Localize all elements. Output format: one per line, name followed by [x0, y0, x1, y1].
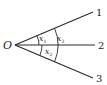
svg-text:3: 3 — [62, 39, 65, 44]
ray-label-1: 1 — [96, 7, 102, 18]
angle-label-x2: x 2 — [45, 47, 53, 57]
angle-diagram: O 1 2 3 x 1 x 2 x 3 — [0, 0, 107, 85]
angle-arc-x2 — [40, 45, 42, 56]
ray-1 — [15, 12, 93, 45]
ray-label-2: 2 — [98, 40, 104, 51]
origin-label: O — [3, 39, 12, 52]
ray-3 — [15, 45, 93, 78]
svg-text:2: 2 — [50, 52, 53, 57]
angle-label-x1: x 1 — [39, 34, 47, 44]
ray-label-3: 3 — [96, 73, 102, 84]
angle-label-x3: x 3 — [57, 34, 65, 44]
svg-text:1: 1 — [44, 39, 47, 44]
